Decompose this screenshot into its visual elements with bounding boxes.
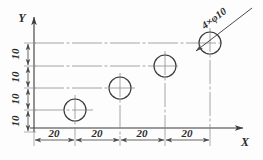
y-dimension-value-4: 10 (9, 48, 21, 60)
drawing-svg: Y X 4×φ10 (0, 0, 263, 160)
y-axis-label: Y (18, 11, 27, 25)
x-dimension-value-1: 20 (48, 127, 61, 139)
x-dimension-chain: 20 20 20 20 (34, 127, 210, 146)
engineering-drawing-canvas: Y X 4×φ10 (0, 0, 263, 160)
y-dimension-chain: 10 10 10 10 (9, 43, 36, 132)
x-dimension-value-3: 20 (136, 127, 149, 139)
vertical-center-lines (75, 28, 210, 136)
callout-label: 4×φ10 (199, 5, 229, 32)
y-dimension-value-2: 10 (9, 93, 21, 105)
callout-group: 4×φ10 (196, 5, 252, 51)
x-dimension-value-2: 20 (91, 127, 104, 139)
y-dimension-value-1: 10 (9, 115, 21, 127)
y-dimension-value-3: 10 (9, 71, 21, 83)
x-axis-label: X (240, 135, 250, 149)
x-dimension-value-4: 20 (181, 127, 194, 139)
horizontal-center-lines (34, 43, 224, 110)
hole-group (64, 32, 221, 121)
